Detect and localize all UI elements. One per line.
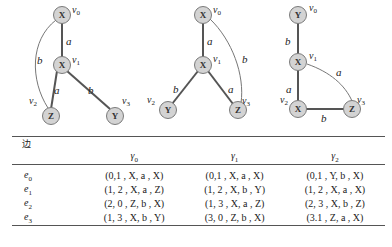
dfs-code-cell: (1, 2 , X, a , X) [285, 183, 385, 197]
edge-label: b [321, 112, 327, 124]
svg-text:Z: Z [349, 104, 355, 114]
edge-label: a [66, 35, 72, 47]
dfs-code-cell: (1, 3 , X, b , Y) [84, 211, 184, 226]
svg-text:Z: Z [48, 111, 54, 121]
graph-gamma2: b a a b Y X X Z v0 v1 v2 v3 [280, 2, 365, 124]
node-v1: X [54, 57, 71, 74]
header-edge: 边 [12, 137, 84, 151]
edge-label: b [173, 83, 179, 95]
graph-gamma1: a b b a X X Y Z v0 v1 v2 v3 [147, 4, 250, 119]
edge-label: b [37, 54, 43, 66]
table-row: e0 (0,1 , X, a , X) (0,1 , X, a , X) (0,… [12, 169, 385, 183]
node-v2: Y [160, 102, 177, 119]
node-v1: X [195, 57, 212, 74]
svg-text:v2: v2 [147, 94, 155, 107]
edge-name: e2 [12, 197, 84, 211]
dfs-code-cell: (2, 0 , Z, b , X) [84, 197, 184, 211]
header-gamma2: γ2 [285, 150, 385, 165]
svg-text:X: X [59, 60, 66, 70]
gspan-code-table: 边 γ0 γ1 γ2 e0 (0,1 , X, a , X) (0,1 , X,… [12, 136, 385, 226]
svg-text:v0: v0 [72, 4, 80, 17]
node-v0: Y [290, 7, 307, 24]
edge-name: e1 [12, 183, 84, 197]
dfs-code-cell: (1, 3 , X, a , Z) [184, 197, 284, 211]
svg-text:v0: v0 [213, 4, 221, 17]
svg-text:Z: Z [235, 105, 241, 115]
edge-v1-v3 [307, 64, 352, 101]
node-v2: Z [43, 108, 60, 125]
svg-text:v2: v2 [280, 94, 288, 107]
dfs-code-cell: (0,1 , Y, b , X) [285, 169, 385, 183]
svg-text:X: X [59, 10, 66, 20]
svg-text:Y: Y [295, 10, 302, 20]
dfs-code-cell: (3, 0 , Z, b , X) [184, 211, 284, 226]
header-gamma1: γ1 [184, 150, 284, 165]
svg-text:v0: v0 [309, 2, 317, 15]
edge-label: a [54, 84, 60, 96]
svg-text:Y: Y [112, 111, 119, 121]
svg-text:v1: v1 [213, 53, 221, 66]
svg-text:Y: Y [165, 105, 172, 115]
svg-text:X: X [295, 104, 302, 114]
dfs-code-cell: (3.1 , Z, a , X) [285, 211, 385, 226]
edge-label: a [228, 83, 234, 95]
edge-label: b [242, 53, 248, 65]
edge-label: a [207, 35, 213, 47]
node-v0: X [54, 7, 71, 24]
node-v1: X [290, 54, 307, 71]
dfs-code-cell: (1, 2 , X, b , Y) [184, 183, 284, 197]
table-row: e2 (2, 0 , Z, b , X) (1, 3 , X, a , Z) (… [12, 197, 385, 211]
dfs-code-cell: (2, 3 , X, b , Z) [285, 197, 385, 211]
edge-name: e3 [12, 211, 84, 226]
header-gamma0: γ0 [84, 150, 184, 165]
node-v0: X [195, 7, 212, 24]
dfs-code-cell: (0,1 , X, a , X) [184, 169, 284, 183]
table-row: e1 (1, 2 , X, a , Z) (1, 2 , X, b , Y) (… [12, 183, 385, 197]
svg-text:v1: v1 [72, 54, 80, 67]
graph-diagrams: a b a b X X Z Y v0 v1 v2 v3 a b b a X X … [0, 0, 392, 135]
svg-text:v2: v2 [29, 95, 37, 108]
dfs-code-cell: (1, 2 , X, a , Z) [84, 183, 184, 197]
dfs-code-cell: (0,1 , X, a , X) [84, 169, 184, 183]
svg-text:X: X [200, 60, 207, 70]
svg-text:v1: v1 [309, 50, 317, 63]
edge-label: b [285, 35, 291, 47]
graph-gamma0: a b a b X X Z Y v0 v1 v2 v3 [29, 4, 130, 125]
edge-label: a [286, 83, 292, 95]
node-v2: X [290, 101, 307, 118]
table-row: e3 (1, 3 , X, b , Y) (3, 0 , Z, b , X) (… [12, 211, 385, 226]
svg-text:X: X [200, 10, 207, 20]
svg-text:v3: v3 [122, 95, 130, 108]
edge-name: e0 [12, 169, 84, 183]
edge-label: b [88, 84, 94, 96]
edge-label: a [336, 66, 342, 78]
node-v3: Y [107, 108, 124, 125]
svg-text:X: X [295, 57, 302, 67]
